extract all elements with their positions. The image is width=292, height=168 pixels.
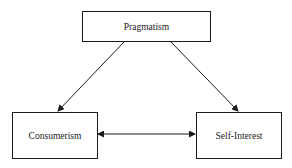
node-label: Consumerism (29, 131, 82, 141)
node-pragmatism: Pragmatism (82, 11, 211, 42)
node-consumerism: Consumerism (12, 112, 98, 159)
diagram-canvas: Pragmatism Consumerism Self-Interest (0, 0, 292, 168)
node-label: Pragmatism (124, 22, 169, 32)
edge-pragmatism-to-consumerism (58, 42, 124, 111)
node-label: Self-Interest (216, 131, 263, 141)
edge-pragmatism-to-self-interest (171, 42, 238, 111)
node-self-interest: Self-Interest (196, 112, 282, 159)
